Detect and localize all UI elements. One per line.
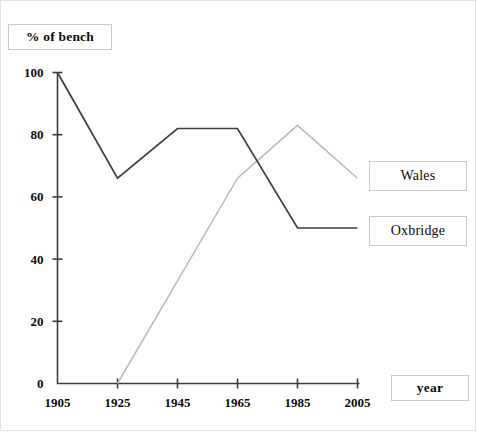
series-line-oxbridge <box>58 73 358 229</box>
data-series-group <box>58 73 358 384</box>
series-line-wales <box>118 125 358 383</box>
y-tick-label: 40 <box>31 252 44 267</box>
x-tick-label: 1965 <box>225 395 252 410</box>
legend-item-oxbridge: Oxbridge <box>369 216 467 246</box>
y-axis-tick-labels: 020406080100 <box>24 65 44 391</box>
y-tick-label: 100 <box>24 65 44 80</box>
x-axis-title: year <box>391 375 469 401</box>
legend-item-wales: Wales <box>369 161 467 191</box>
chart-title: % of bench <box>8 24 112 50</box>
y-tick-label: 0 <box>37 376 44 391</box>
x-tick-label: 2005 <box>345 395 372 410</box>
x-tick-label: 1905 <box>45 395 72 410</box>
x-tick-label: 1945 <box>165 395 192 410</box>
x-tick-label: 1925 <box>105 395 132 410</box>
tick-marks-group <box>53 73 358 389</box>
x-tick-label: 1985 <box>285 395 312 410</box>
line-chart-figure: 020406080100 190519251945196519852005 % … <box>0 0 477 432</box>
y-tick-label: 20 <box>31 314 44 329</box>
y-tick-label: 60 <box>31 189 44 204</box>
x-axis-tick-labels: 190519251945196519852005 <box>45 395 372 410</box>
y-tick-label: 80 <box>31 127 44 142</box>
